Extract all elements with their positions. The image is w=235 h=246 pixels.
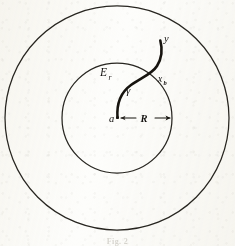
figure-drawing: E r γ a R x b y <box>0 0 235 246</box>
label-boundary-point-letter: x <box>157 74 163 84</box>
label-center-point-a: a <box>109 113 114 124</box>
figure-container: E r γ a R x b y Fig. 2 <box>0 0 235 246</box>
label-boundary-point: x b <box>157 74 168 86</box>
label-outer-region-subscript: r <box>109 73 112 82</box>
label-outer-region-letter: E <box>99 66 107 78</box>
label-boundary-point-subscript: b <box>164 79 168 86</box>
label-radius-R: R <box>140 113 148 124</box>
figure-caption: Fig. 2 <box>0 237 235 246</box>
label-outer-region: E r <box>99 66 112 82</box>
label-endpoint-y: y <box>163 33 169 44</box>
curve-gamma <box>117 41 161 118</box>
label-curve-gamma: γ <box>126 84 131 96</box>
